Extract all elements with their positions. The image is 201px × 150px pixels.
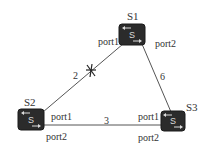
s1-port1-label: port1 bbox=[98, 36, 119, 47]
switch-icon-letter: S bbox=[170, 116, 176, 126]
switch-s1[interactable]: S bbox=[119, 24, 145, 45]
switch-icon-letter: S bbox=[28, 115, 34, 125]
link-s2-s1 bbox=[43, 44, 123, 112]
link-s1-s3 bbox=[142, 44, 171, 112]
switch-label-s1: S1 bbox=[127, 10, 139, 22]
s1-port2-label: port2 bbox=[155, 38, 176, 49]
s3-port2-label: port2 bbox=[138, 132, 159, 143]
s2-port1-label: port1 bbox=[51, 111, 72, 122]
network-topology: 2 6 3 S S1 port1 port2 S S2 port1 port2 bbox=[0, 0, 201, 150]
s2-port2-label: port2 bbox=[46, 131, 67, 142]
blocked-port-x-icon bbox=[86, 64, 96, 77]
link-cost-s2-s3: 3 bbox=[104, 115, 109, 126]
switch-label-s3: S3 bbox=[186, 101, 198, 113]
link-cost-s2-s1: 2 bbox=[73, 70, 78, 81]
link-cost-s1-s3: 6 bbox=[160, 71, 165, 82]
s3-port1-label: port1 bbox=[138, 111, 159, 122]
switch-s2[interactable]: S bbox=[18, 109, 44, 130]
switch-label-s2: S2 bbox=[24, 96, 36, 108]
switch-icon-letter: S bbox=[129, 30, 135, 40]
switch-s3[interactable]: S bbox=[161, 111, 185, 131]
